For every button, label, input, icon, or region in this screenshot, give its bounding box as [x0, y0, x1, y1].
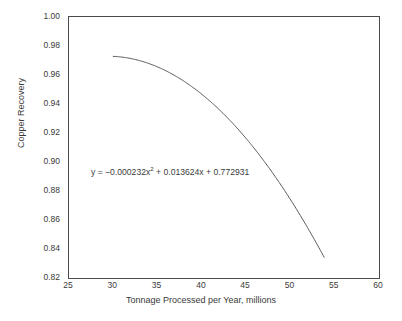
chart-figure: 1.00 0.98 0.96 0.94 0.92 0.90 0.88 0.86 …	[0, 0, 402, 321]
x-tick-label-35: 35	[137, 281, 177, 290]
x-tick-label-55: 55	[314, 281, 354, 290]
x-tick-label-30: 30	[92, 281, 132, 290]
x-tick-label-40: 40	[181, 281, 221, 290]
plot-area: y = −0.000232x2 + 0.013624x + 0.772931	[68, 16, 380, 279]
x-axis-title: Tonnage Processed per Year, millions	[0, 295, 402, 305]
equation-prefix: y = −0.000232x	[91, 167, 150, 177]
y-axis-title: Copper Recovery	[16, 48, 26, 178]
data-series-line	[113, 56, 324, 257]
x-tick-label-50: 50	[269, 281, 309, 290]
x-tick-label-45: 45	[225, 281, 265, 290]
curve-svg	[69, 17, 379, 278]
regression-equation-annotation: y = −0.000232x2 + 0.013624x + 0.772931	[91, 167, 249, 177]
x-tick-label-25: 25	[48, 281, 88, 290]
x-tick-label-60: 60	[358, 281, 398, 290]
equation-suffix: + 0.013624x + 0.772931	[154, 167, 250, 177]
